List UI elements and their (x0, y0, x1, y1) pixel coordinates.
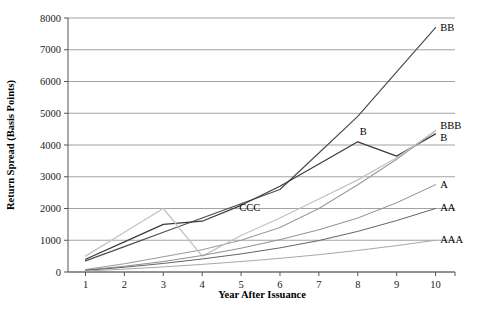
y-tick-label-3000: 3000 (40, 171, 61, 182)
x-axis-title: Year After Issuance (218, 289, 306, 300)
y-tick-label-1000: 1000 (40, 235, 61, 246)
y-axis-ticks: 010002000300040005000600070008000 (40, 13, 68, 278)
x-tick-label-4: 4 (200, 279, 206, 290)
x-tick-label-3: 3 (161, 279, 166, 290)
series-label-b: B (440, 132, 447, 143)
series-label-a: A (440, 179, 448, 190)
x-axis-ticks: 12345678910 (83, 272, 455, 290)
y-tick-label-6000: 6000 (40, 76, 61, 87)
x-tick-label-10: 10 (430, 279, 441, 290)
series-line-ccc (86, 131, 436, 256)
y-tick-label-2000: 2000 (40, 203, 61, 214)
x-tick-label-8: 8 (355, 279, 360, 290)
series-label-bbb: BBB (440, 120, 461, 131)
series-line-aaa (86, 240, 436, 271)
return-spread-line-chart: 010002000300040005000600070008000 123456… (0, 0, 490, 311)
y-tick-label-8000: 8000 (40, 13, 61, 24)
y-tick-label-4000: 4000 (40, 140, 61, 151)
series-line-bb (86, 28, 436, 261)
data-series-group (86, 28, 436, 272)
series-label-aaa: AAA (440, 234, 463, 245)
chart-figure: 010002000300040005000600070008000 123456… (0, 0, 490, 311)
series-annotation-b: B (360, 126, 367, 137)
x-tick-label-1: 1 (83, 279, 88, 290)
y-tick-label-7000: 7000 (40, 44, 61, 55)
series-label-bb: BB (440, 22, 454, 33)
series-label-aa: AA (440, 202, 456, 213)
x-tick-label-7: 7 (316, 279, 321, 290)
x-tick-label-9: 9 (394, 279, 399, 290)
series-label-ccc: CCC (239, 202, 260, 213)
y-tick-label-5000: 5000 (40, 108, 61, 119)
y-axis-title: Return Spread (Basis Points) (5, 79, 17, 210)
x-tick-label-2: 2 (122, 279, 127, 290)
y-tick-label-0: 0 (56, 267, 61, 278)
series-labels-group: BBBBBBBCCCAAAAAA (239, 22, 463, 244)
